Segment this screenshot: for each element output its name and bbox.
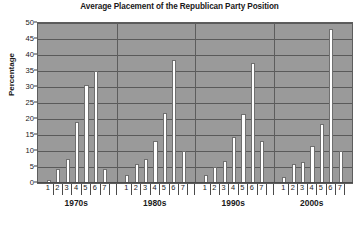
group-separator	[195, 23, 196, 183]
x-group-separator	[273, 184, 274, 195]
bar	[320, 124, 324, 183]
x-tick-separator	[344, 184, 345, 195]
group-separator	[274, 23, 275, 183]
x-axis-tick-label: 3	[65, 183, 69, 192]
x-group-separator	[194, 184, 195, 195]
y-axis-ticks: 05101520253035404550	[16, 16, 34, 188]
group-separator	[117, 23, 118, 183]
x-group-separator	[116, 184, 117, 195]
bar	[135, 164, 139, 183]
x-tick-separator	[257, 184, 258, 195]
x-tick-separator	[131, 184, 132, 195]
x-tick-separator	[316, 184, 317, 195]
x-axis-tick-label: 6	[171, 183, 175, 192]
x-axis-tick-label: 2	[212, 183, 216, 192]
y-axis-tick-25: 25	[16, 98, 34, 107]
x-tick-separator	[90, 184, 91, 195]
x-axis-tick-label: 5	[83, 183, 87, 192]
bar	[94, 71, 98, 183]
x-axis-tick-label: 3	[222, 183, 226, 192]
x-tick-separator	[81, 184, 82, 195]
x-tick-separator	[150, 184, 151, 195]
chart-figure: Average Placement of the Republican Part…	[0, 0, 359, 227]
bar	[144, 159, 148, 183]
x-tick-separator	[266, 184, 267, 195]
x-tick-separator	[288, 184, 289, 195]
x-tick-separator	[297, 184, 298, 195]
bar	[163, 113, 167, 183]
x-tick-separator	[140, 184, 141, 195]
x-axis-tick-label: 5	[162, 183, 166, 192]
bar	[172, 60, 176, 183]
bar	[153, 141, 157, 183]
bar	[66, 159, 70, 183]
bar	[329, 29, 333, 183]
x-tick-separator	[62, 184, 63, 195]
x-tick-separator	[109, 184, 110, 195]
bar	[84, 85, 88, 183]
x-axis-tick-label: 1	[124, 183, 128, 192]
x-axis-tick-label: 2	[55, 183, 59, 192]
x-tick-separator	[228, 184, 229, 195]
x-tick-separator	[53, 184, 54, 195]
bar	[310, 146, 314, 183]
y-axis-tick-0: 0	[16, 178, 34, 187]
y-axis-tick-5: 5	[16, 162, 34, 171]
y-axis-label: Percentage	[7, 35, 16, 115]
x-axis-tick-label: 1	[46, 183, 50, 192]
x-axis-tick-label: 6	[250, 183, 254, 192]
x-axis-tick-label: 5	[319, 183, 323, 192]
x-tick-separator	[238, 184, 239, 195]
x-tick-separator	[307, 184, 308, 195]
x-axis-tick-labels: 1234567123456712345671234567	[37, 183, 353, 197]
bar	[241, 114, 245, 183]
x-axis-tick-label: 1	[281, 183, 285, 192]
x-tick-separator	[335, 184, 336, 195]
x-axis-tick-label: 6	[328, 183, 332, 192]
x-tick-separator	[100, 184, 101, 195]
x-axis-tick-label: 5	[240, 183, 244, 192]
x-tick-separator	[169, 184, 170, 195]
x-tick-separator	[247, 184, 248, 195]
x-tick-separator	[187, 184, 188, 195]
x-tick-separator	[159, 184, 160, 195]
bar	[292, 164, 296, 183]
bar	[301, 162, 305, 183]
x-axis-tick-label: 3	[300, 183, 304, 192]
y-axis-tick-40: 40	[16, 50, 34, 59]
x-tick-separator	[178, 184, 179, 195]
bar	[103, 169, 107, 183]
y-axis-tick-45: 45	[16, 34, 34, 43]
x-axis-tick-label: 4	[231, 183, 235, 192]
y-axis-tick-35: 35	[16, 66, 34, 75]
y-axis-tick-30: 30	[16, 82, 34, 91]
x-tick-separator	[326, 184, 327, 195]
x-axis-tick-label: 6	[93, 183, 97, 192]
group-label-1990s: 1990s	[222, 198, 245, 208]
bar	[251, 63, 255, 183]
y-axis-tick-50: 50	[16, 18, 34, 27]
x-axis-tick-label: 4	[309, 183, 313, 192]
group-label-1980s: 1980s	[143, 198, 166, 208]
x-axis-group-labels: 1970s1980s1990s2000s	[37, 198, 353, 212]
bar	[232, 137, 236, 183]
x-axis-tick-label: 4	[74, 183, 78, 192]
x-tick-separator	[71, 184, 72, 195]
y-axis-tick-20: 20	[16, 114, 34, 123]
x-axis-tick-label: 7	[102, 183, 106, 192]
chart-title: Average Placement of the Republican Part…	[0, 2, 359, 11]
x-tick-separator	[210, 184, 211, 195]
x-axis-tick-label: 7	[181, 183, 185, 192]
bar	[182, 151, 186, 183]
x-axis-tick-label: 7	[338, 183, 342, 192]
y-axis-tick-15: 15	[16, 130, 34, 139]
x-axis-tick-label: 1	[203, 183, 207, 192]
bar	[223, 161, 227, 183]
x-axis-tick-label: 3	[143, 183, 147, 192]
x-axis-tick-label: 2	[291, 183, 295, 192]
bar	[260, 141, 264, 183]
plot-area	[37, 22, 353, 184]
x-axis-tick-label: 4	[152, 183, 156, 192]
x-axis-tick-label: 2	[134, 183, 138, 192]
bar	[339, 151, 343, 183]
